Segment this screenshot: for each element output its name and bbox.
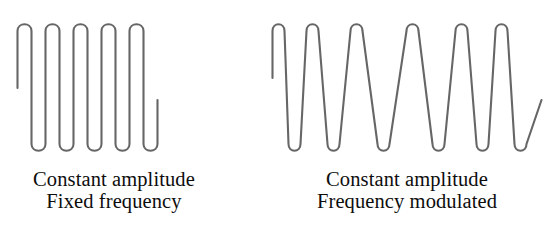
caption-line-1: Constant amplitude xyxy=(255,168,559,190)
waveform-path xyxy=(18,24,158,151)
caption-fixed-frequency: Constant amplitude Fixed frequency xyxy=(0,168,228,212)
caption-line-2: Fixed frequency xyxy=(0,190,228,212)
panel-fixed-frequency: Constant amplitude Fixed frequency xyxy=(0,0,230,230)
fixed-frequency-waveform xyxy=(0,0,230,168)
caption-frequency-modulated: Constant amplitude Frequency modulated xyxy=(255,168,559,212)
panel-frequency-modulated: Constant amplitude Frequency modulated xyxy=(255,0,559,230)
caption-line-2: Frequency modulated xyxy=(255,190,559,212)
waveform-path xyxy=(273,24,542,151)
caption-line-1: Constant amplitude xyxy=(0,168,228,190)
frequency-modulated-waveform xyxy=(255,0,559,168)
figure-root: Constant amplitude Fixed frequency Const… xyxy=(0,0,559,230)
